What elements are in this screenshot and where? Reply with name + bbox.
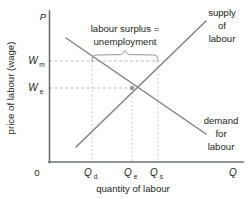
- demand-curve-label: demand for labour: [204, 115, 239, 152]
- x-axis-title: quantity of labour: [96, 183, 170, 194]
- y-axis-symbol: P: [40, 11, 47, 22]
- x-tick-qe: Q e: [124, 167, 138, 180]
- supply-curve-label-line3: labour: [209, 33, 236, 44]
- demand-curve-label-line1: demand: [204, 115, 239, 126]
- origin-label: 0: [34, 167, 39, 178]
- surplus-annotation: labour surplus = unemployment: [91, 23, 160, 47]
- supply-curve-label-line1: supply: [208, 7, 236, 18]
- chart-canvas: P Q 0 Q d Q e Q s W m W e price of labou…: [0, 0, 250, 199]
- y-tick-we: W e: [28, 82, 43, 95]
- labour-market-diagram: P Q 0 Q d Q e Q s W m W e price of labou…: [0, 0, 250, 199]
- surplus-annotation-line1: labour surplus =: [91, 23, 160, 34]
- surplus-brace: [92, 50, 158, 61]
- supply-curve-label-line2: of: [218, 20, 226, 31]
- x-axis-symbol: Q: [229, 167, 237, 178]
- surplus-annotation-line2: unemployment: [94, 36, 157, 47]
- x-tick-qd: Q d: [84, 167, 98, 180]
- x-tick-qs-base: Q: [150, 167, 158, 178]
- x-tick-qs-sub: s: [160, 173, 164, 180]
- demand-curve-label-line3: labour: [208, 141, 235, 152]
- demand-curve-label-line2: for: [215, 128, 227, 139]
- y-axis-title: price of labour (wage): [5, 42, 16, 135]
- x-tick-qd-base: Q: [84, 167, 92, 178]
- y-tick-wm: W m: [28, 55, 45, 68]
- y-tick-we-base: W: [28, 82, 39, 93]
- y-tick-wm-sub: m: [39, 61, 45, 68]
- demand-curve: [66, 38, 206, 134]
- y-tick-we-sub: e: [40, 88, 44, 95]
- y-tick-wm-base: W: [28, 55, 39, 66]
- supply-curve-label: supply of labour: [208, 7, 236, 44]
- equilibrium-point: [130, 86, 134, 90]
- x-tick-qe-sub: e: [134, 173, 138, 180]
- x-tick-qs: Q s: [150, 167, 164, 180]
- x-tick-qe-base: Q: [124, 167, 132, 178]
- x-tick-qd-sub: d: [94, 173, 98, 180]
